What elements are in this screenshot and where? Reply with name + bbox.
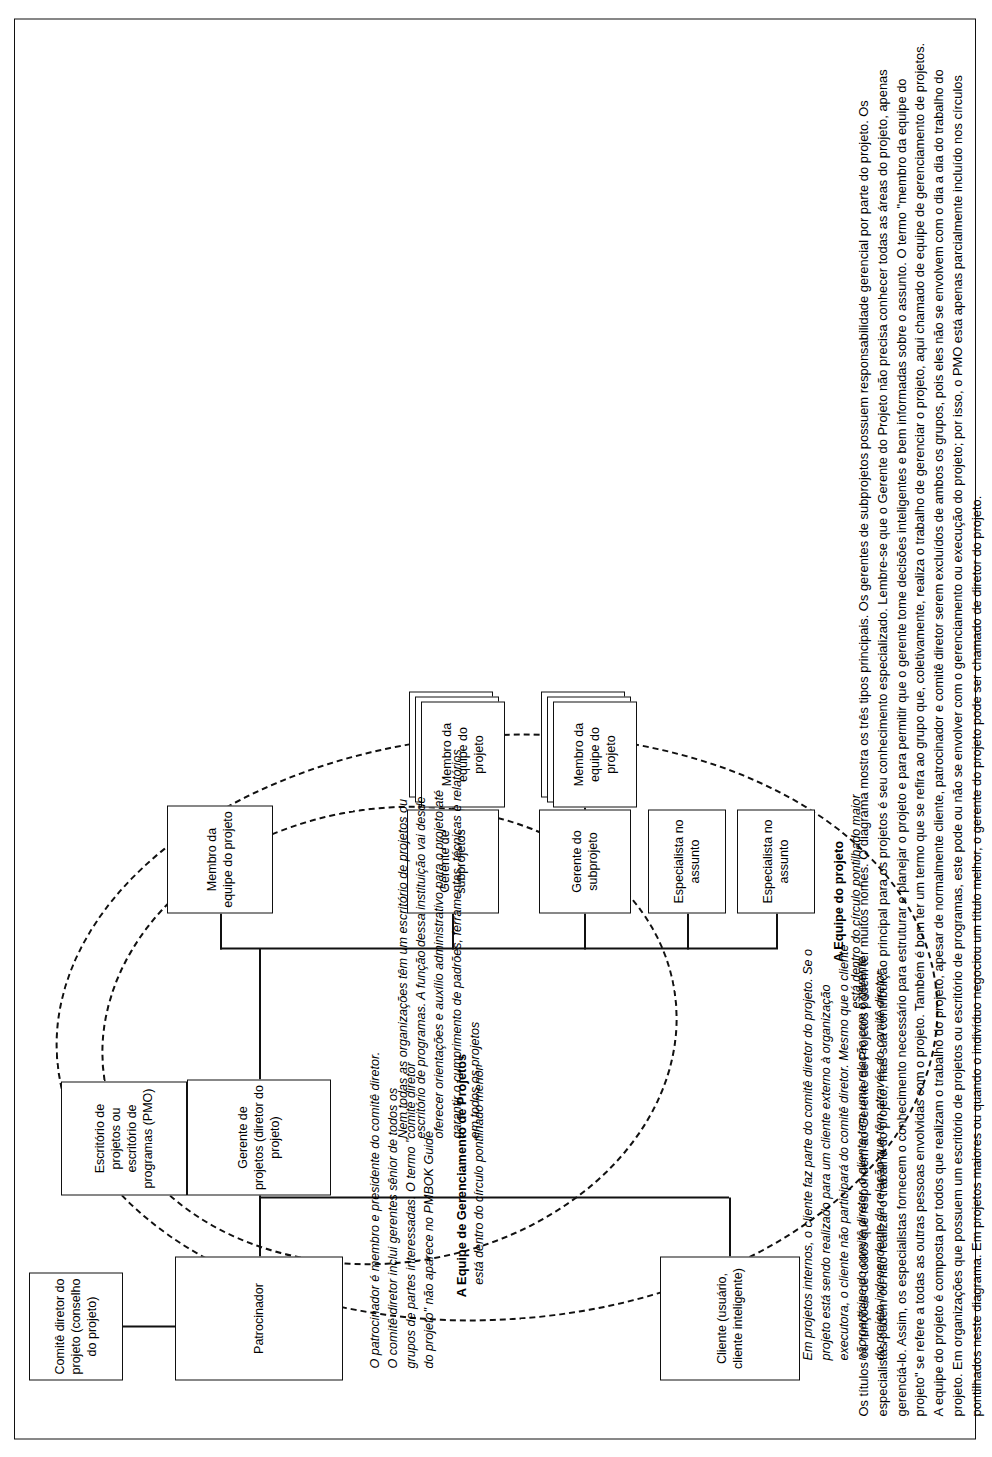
caption-text: Os títulos ou funções de todos que respo… (856, 42, 984, 1416)
node-project-manager-label: Gerente de projetos (diretor do projeto) (235, 1084, 283, 1190)
node-team-member-stack-2[interactable]: Membro da equipe do projeto (541, 689, 639, 807)
node-steering-committee-label: Comitê diretor do projeto (conselho do p… (52, 1277, 100, 1375)
node-specialist-2-label: Especialista no assunto (760, 814, 792, 908)
line-stub-subproject-manager (584, 913, 586, 949)
node-pmo[interactable]: Escritório de projetos ou escritório de … (61, 1081, 187, 1195)
node-client-label: Cliente (usuário, cliente inteligente) (714, 1261, 746, 1375)
node-client[interactable]: Cliente (usuário, cliente inteligente) (660, 1256, 800, 1380)
caption-paragraph: Os títulos ou funções de todos que respo… (855, 38, 987, 1416)
node-specialist-1[interactable]: Especialista no assunto (648, 809, 726, 913)
note-pmo-text: Nem todas as organizações têm um escritó… (396, 749, 482, 1138)
line-client-spine (259, 1196, 729, 1198)
node-project-manager[interactable]: Gerente de projetos (diretor do projeto) (187, 1079, 331, 1195)
node-subproject-manager[interactable]: Gerente do subprojeto (539, 809, 631, 913)
node-subproject-manager-label: Gerente do subprojeto (569, 814, 601, 908)
node-steering-committee[interactable]: Comitê diretor do projeto (conselho do p… (29, 1272, 123, 1380)
diagram-frame: Comitê diretor do projeto (conselho do p… (14, 18, 976, 1439)
node-team-member-stack-2-label: Membro da equipe do projeto (571, 706, 619, 802)
rotated-canvas: Comitê diretor do projeto (conselho do p… (0, 0, 992, 1457)
node-specialist-1-label: Especialista no assunto (671, 814, 703, 908)
line-pm-subordinates (259, 948, 261, 1079)
line-subordinate-spine (220, 947, 776, 949)
node-team-member-top[interactable]: Membro da equipe do projeto (167, 805, 273, 913)
circle-label-project-team-title: A Equipe do projeto (830, 756, 848, 1046)
node-pmo-label: Escritório de projetos ou escritório de … (92, 1086, 156, 1190)
line-stub-team-member (220, 913, 222, 949)
node-team-member-top-label: Membro da equipe do projeto (204, 810, 236, 908)
node-specialist-2[interactable]: Especialista no assunto (737, 809, 815, 913)
line-stub-specialist-1 (687, 913, 689, 949)
note-pmo: Nem todas as organizações têm um escritó… (395, 748, 484, 1138)
node-sponsor-label: Patrocinador (251, 1283, 267, 1354)
page-root: Comitê diretor do projeto (conselho do p… (0, 0, 992, 1457)
node-team-member-stack-2-front[interactable]: Membro da equipe do projeto (553, 701, 637, 807)
line-stub-specialist-2 (776, 913, 778, 949)
line-client-connector (729, 1197, 731, 1256)
line-committee-sponsor (123, 1325, 175, 1327)
node-sponsor[interactable]: Patrocinador (175, 1256, 343, 1380)
